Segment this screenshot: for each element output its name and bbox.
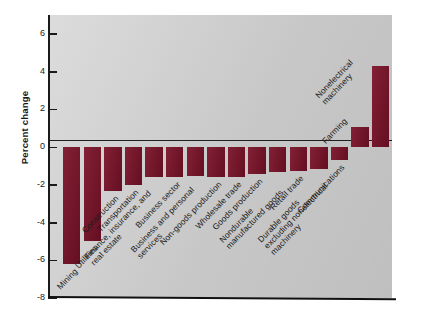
bar [351,127,368,147]
bar [207,147,224,177]
bar [269,147,286,172]
y-axis-line [48,15,50,298]
y-tick-mark [48,109,57,111]
y-tick-mark [48,260,57,262]
bar [310,147,327,169]
y-tick-label: 6 [23,29,45,38]
bar [248,147,265,174]
bar [104,147,121,191]
y-tick-label: 2 [23,104,45,113]
bar [63,147,80,264]
y-tick-mark [48,298,57,300]
y-tick-mark [48,222,57,224]
bar [166,147,183,177]
y-tick-label: 4 [23,67,45,76]
bar [331,147,348,160]
bar [125,147,142,185]
y-tick-label: -4 [23,218,45,227]
bar [228,147,245,177]
y-tick-mark [48,184,57,186]
zero-baseline [48,140,392,141]
bar [290,147,307,171]
bar [145,147,162,177]
y-tick-mark [48,33,57,35]
bar [187,147,204,176]
y-tick-label: 0 [23,142,45,151]
y-tick-mark [48,71,57,73]
y-tick-label: -6 [23,255,45,264]
y-axis-title: Percent change [19,63,30,193]
bar [372,66,389,147]
y-tick-label: -8 [23,293,45,302]
y-tick-label: -2 [23,180,45,189]
y-tick-mark [48,147,57,149]
chart-figure: Percent change 6420-2-4-6-8 MiningUtilit… [0,0,427,318]
